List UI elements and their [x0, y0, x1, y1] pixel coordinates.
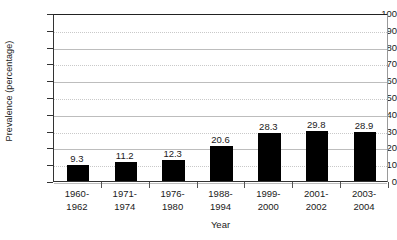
x-axis-category-label-line: 2002	[292, 201, 340, 214]
x-axis-category-label: 2003-2004	[340, 188, 388, 213]
x-axis-tick-mark	[388, 182, 389, 188]
x-axis-category-label-line: 1994	[197, 201, 245, 214]
x-axis-category-label-line: 2004	[340, 201, 388, 214]
x-axis-category-label-line: 1974	[101, 201, 149, 214]
y-axis-tick-mark	[47, 182, 53, 183]
bar-chart: Prevalence (percentage) 0102030405060708…	[0, 0, 397, 240]
gridline	[54, 82, 387, 83]
gridline	[54, 65, 387, 66]
x-axis-category-label-line: 1962	[53, 201, 101, 214]
x-axis-category-label-line: 1971-	[101, 188, 149, 201]
x-axis-category-label-line: 1976-	[149, 188, 197, 201]
bar-value-label: 9.3	[53, 154, 101, 164]
gridline	[54, 49, 387, 50]
x-axis-category-label: 1960-1962	[53, 188, 101, 213]
bar	[258, 133, 280, 181]
x-axis-category-label-line: 1999-	[244, 188, 292, 201]
bar	[67, 165, 89, 181]
bar	[306, 131, 328, 181]
x-axis-category-label-line: 2000	[244, 201, 292, 214]
bar-value-label: 12.3	[149, 149, 197, 159]
bar	[354, 132, 376, 181]
x-axis-category-label-line: 1980	[149, 201, 197, 214]
bar-value-label: 29.8	[292, 120, 340, 130]
gridline	[54, 116, 387, 117]
x-axis-category-label-line: 2003-	[340, 188, 388, 201]
x-axis-category-label-line: 1988-	[197, 188, 245, 201]
gridline	[54, 32, 387, 33]
y-axis-title: Prevalence (percentage)	[0, 0, 18, 182]
x-axis-category-label-line: 1960-	[53, 188, 101, 201]
bar-value-label: 20.6	[197, 135, 245, 145]
x-axis-category-label: 1971-1974	[101, 188, 149, 213]
x-axis-category-label: 1999-2000	[244, 188, 292, 213]
bar-value-label: 28.3	[244, 122, 292, 132]
x-axis-category-label: 1976-1980	[149, 188, 197, 213]
bar-value-label: 28.9	[340, 121, 388, 131]
y-axis-title-text: Prevalence (percentage)	[4, 41, 14, 142]
x-axis-category-label: 1988-1994	[197, 188, 245, 213]
bar-value-label: 11.2	[101, 151, 149, 161]
bar	[115, 162, 137, 181]
x-axis-category-label: 2001-2002	[292, 188, 340, 213]
gridline	[54, 183, 387, 184]
x-axis-category-label-line: 2001-	[292, 188, 340, 201]
bar	[162, 160, 184, 181]
gridline	[54, 99, 387, 100]
x-axis-title: Year	[53, 219, 388, 230]
bar	[210, 146, 232, 181]
